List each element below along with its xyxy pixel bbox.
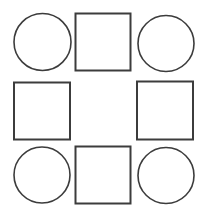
square-middle-left xyxy=(14,83,70,140)
shape-grid-figure xyxy=(0,0,206,216)
circle-top-left xyxy=(14,14,71,71)
shape-grid-canvas xyxy=(0,0,206,216)
square-top-center xyxy=(76,14,131,71)
square-bottom-center xyxy=(76,147,131,204)
shape-row-bottom xyxy=(14,147,194,204)
circle-top-right xyxy=(138,16,194,72)
circle-bottom-right xyxy=(138,148,194,204)
circle-bottom-left xyxy=(14,147,70,203)
square-middle-right xyxy=(137,82,193,140)
shape-row-top xyxy=(14,14,194,72)
